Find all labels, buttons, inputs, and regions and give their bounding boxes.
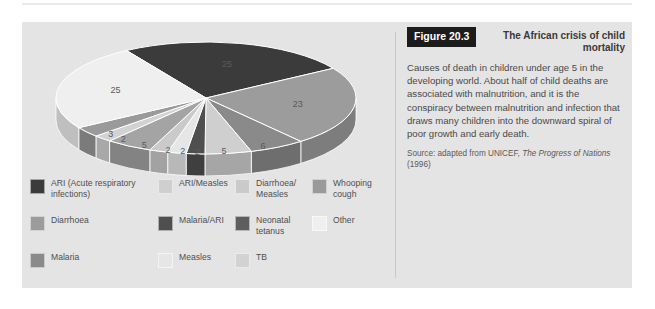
pie-chart-svg: ARI (Acute respiratory infections): 25Di…	[30, 26, 382, 176]
legend-label-diarrhoea-measles: Diarrhoea/ Measles	[256, 178, 296, 199]
legend-swatch-measles	[158, 253, 173, 268]
legend-label-malaria-ari: Malaria/ARI	[179, 215, 224, 226]
figure-title: The African crisis of child mortality	[476, 27, 625, 54]
legend-item-diarrhoea[interactable]: Diarrhoea	[30, 215, 158, 236]
figure-page: ARI (Acute respiratory infections): 25Di…	[0, 0, 655, 309]
legend-label-measles: Measles	[179, 252, 211, 263]
legend-swatch-tb	[235, 253, 250, 268]
legend-row: Malaria Measles TB	[30, 252, 386, 268]
pie-data-label: 25	[110, 85, 120, 95]
legend-label-whooping-cough: Whooping cough	[333, 178, 372, 199]
legend-label-tb: TB	[256, 252, 267, 263]
pie-data-label: 23	[293, 99, 303, 109]
source-prefix: Source: adapted from UNICEF,	[407, 149, 522, 158]
pie-data-label: 2	[195, 147, 200, 157]
legend-item-tb[interactable]: TB	[235, 252, 312, 268]
figure-source: Source: adapted from UNICEF, The Progres…	[407, 149, 625, 170]
pie-data-label: 5	[221, 146, 226, 156]
legend-item-placeholder	[312, 252, 386, 268]
legend-item-diarrhoea-measles[interactable]: Diarrhoea/ Measles	[235, 178, 312, 199]
pie-data-label: 2	[121, 134, 126, 144]
legend-swatch-ari	[30, 179, 45, 194]
legend-swatch-diarrhoea-measles	[235, 179, 250, 194]
legend-swatch-malaria-ari	[158, 216, 173, 231]
top-rule	[22, 3, 632, 5]
legend-item-other[interactable]: Other	[312, 215, 386, 236]
chart-area: ARI (Acute respiratory infections): 25Di…	[22, 22, 388, 288]
legend-item-whooping-cough[interactable]: Whooping cough	[312, 178, 386, 199]
pie-data-label: 2	[166, 145, 171, 155]
pie-slice-side	[186, 154, 205, 176]
caption-area: Figure 20.3 The African crisis of child …	[407, 22, 625, 288]
source-suffix: (1996)	[407, 160, 431, 169]
pie-data-label: 6	[261, 141, 266, 151]
caption-header: Figure 20.3 The African crisis of child …	[407, 27, 625, 54]
legend-label-ari: ARI (Acute respiratory infections)	[51, 178, 136, 199]
legend-label-other: Other	[333, 215, 355, 226]
legend-item-malaria[interactable]: Malaria	[30, 252, 158, 268]
chart-legend: ARI (Acute respiratory infections) ARI/M…	[30, 178, 386, 284]
legend-item-malaria-ari[interactable]: Malaria/ARI	[158, 215, 235, 236]
pie-chart: ARI (Acute respiratory infections): 25Di…	[30, 26, 382, 176]
legend-swatch-other	[312, 216, 327, 231]
legend-item-ari-measles[interactable]: ARI/Measles	[158, 178, 235, 199]
legend-row: Diarrhoea Malaria/ARI Neonatal tetanus O…	[30, 215, 386, 236]
legend-swatch-malaria	[30, 253, 45, 268]
figure-caption-body: Causes of death in children under age 5 …	[407, 61, 625, 140]
legend-swatch-ari-measles	[158, 179, 173, 194]
pie-slice-side	[205, 151, 251, 176]
pie-data-label: 5	[142, 140, 147, 150]
legend-label-malaria: Malaria	[51, 252, 79, 263]
legend-swatch-diarrhoea	[30, 216, 45, 231]
source-title: The Progress of Nations	[522, 149, 610, 158]
legend-label-neonatal-tetanus: Neonatal tetanus	[256, 215, 290, 236]
legend-row: ARI (Acute respiratory infections) ARI/M…	[30, 178, 386, 199]
legend-swatch-neonatal-tetanus	[235, 216, 250, 231]
pie-data-label: 25	[222, 59, 232, 69]
figure-number-tag: Figure 20.3	[407, 27, 476, 47]
panel-divider	[395, 32, 396, 278]
legend-label-ari-measles: ARI/Measles	[179, 178, 228, 189]
legend-item-measles[interactable]: Measles	[158, 252, 235, 268]
pie-data-label: 2	[180, 146, 185, 156]
pie-data-label: 3	[108, 129, 113, 139]
legend-swatch-whooping-cough	[312, 179, 327, 194]
legend-item-ari[interactable]: ARI (Acute respiratory infections)	[30, 178, 158, 199]
legend-label-diarrhoea: Diarrhoea	[51, 215, 89, 226]
legend-item-neonatal-tetanus[interactable]: Neonatal tetanus	[235, 215, 312, 236]
figure-panel: ARI (Acute respiratory infections): 25Di…	[22, 22, 632, 288]
